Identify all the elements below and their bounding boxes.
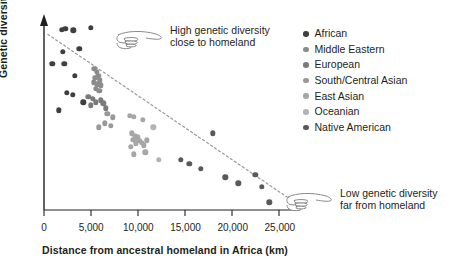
legend-marker-icon <box>303 125 309 131</box>
callout-line-1: Low genetic diversity <box>340 187 437 199</box>
scatter-point <box>96 125 101 130</box>
scatter-point <box>144 138 149 143</box>
legend-item-label: Oceanian <box>315 106 360 117</box>
callout-line-1: High genetic diversity <box>170 24 270 36</box>
x-tick-label: 20,000 <box>217 222 248 233</box>
scatter-point <box>156 157 161 162</box>
legend-marker-icon <box>303 109 309 115</box>
scatter-point <box>259 184 264 189</box>
scatter-point <box>70 92 75 97</box>
x-tick-label: 25,000 <box>265 222 296 233</box>
legend-marker-icon <box>303 47 309 53</box>
legend-item-middle-eastern[interactable]: Middle Eastern <box>303 42 455 58</box>
legend-item-oceanian[interactable]: Oceanian <box>303 104 455 120</box>
scatter-point <box>133 140 138 145</box>
scatter-point <box>98 82 103 87</box>
x-tick-label: 15,000 <box>170 222 201 233</box>
legend-item-european[interactable]: European <box>303 57 455 73</box>
scatter-point <box>50 61 55 66</box>
x-axis-title: Distance from ancestral homeland in Afri… <box>0 244 330 256</box>
scatter-point <box>151 125 156 130</box>
scatter-point <box>96 88 101 93</box>
legend-marker-icon <box>303 62 309 68</box>
scatter-point <box>253 172 258 177</box>
scatter-point <box>88 25 93 30</box>
legend-item-label: Middle Eastern <box>315 44 385 55</box>
scatter-point <box>80 100 85 105</box>
scatter-point <box>222 175 227 180</box>
scatter-point <box>267 200 272 205</box>
pointing-hand-right-icon <box>112 26 168 56</box>
scatter-point <box>72 73 77 78</box>
scatter-point <box>141 143 146 148</box>
x-tick-label: 0 <box>41 222 47 233</box>
scatter-point <box>210 130 215 135</box>
scatter-point <box>77 46 82 51</box>
legend-item-native-american[interactable]: Native American <box>303 120 455 136</box>
scatter-point <box>63 26 68 31</box>
scatter-point <box>64 90 69 95</box>
scatter-point <box>108 123 113 128</box>
scatter-point <box>198 166 203 171</box>
scatter-point <box>62 61 67 66</box>
scatter-point <box>110 115 115 120</box>
legend-item-label: European <box>315 59 361 70</box>
legend-marker-icon <box>303 78 309 84</box>
scatter-point <box>105 111 110 116</box>
legend-marker-icon <box>303 31 309 37</box>
legend-marker-icon <box>303 93 309 99</box>
scatter-point <box>143 150 148 155</box>
high-diversity-callout-text: High genetic diversity close to homeland <box>170 24 270 48</box>
chart-legend: AfricanMiddle EasternEuropeanSouth/Centr… <box>303 26 455 135</box>
callout-line-2: far from homeland <box>340 199 437 211</box>
scatter-point <box>60 49 65 54</box>
x-tick-label: 5,000 <box>79 222 104 233</box>
scatter-point <box>178 157 183 162</box>
low-diversity-callout-text: Low genetic diversity far from homeland <box>340 187 437 211</box>
scatter-point <box>102 121 107 126</box>
x-axis-ticks <box>44 210 279 216</box>
y-axis-title: Genetic diversity <box>0 0 9 78</box>
scatter-point <box>140 117 145 122</box>
scatter-point <box>131 152 136 157</box>
callout-line-2: close to homeland <box>170 36 270 48</box>
pointing-hand-right-icon <box>282 188 338 218</box>
scatter-chart-figure: Genetic diversity 05,00010,00015,00020,0… <box>0 0 460 268</box>
x-tick-label: 10,000 <box>123 222 154 233</box>
scatter-point <box>128 144 133 149</box>
legend-item-east-asian[interactable]: East Asian <box>303 88 455 104</box>
legend-item-label: South/Central Asian <box>315 75 408 86</box>
scatter-point <box>88 103 93 108</box>
scatter-point <box>103 106 108 111</box>
legend-item-label: Native American <box>315 122 391 133</box>
legend-item-label: East Asian <box>315 91 365 102</box>
scatter-point <box>56 107 61 112</box>
scatter-point <box>187 161 192 166</box>
scatter-point <box>131 114 136 119</box>
scatter-point <box>236 180 241 185</box>
legend-item-south-central-asian[interactable]: South/Central Asian <box>303 73 455 89</box>
scatter-point <box>71 28 76 33</box>
x-axis-tick-labels: 05,00010,00015,00020,00025,000 <box>44 222 294 236</box>
legend-item-african[interactable]: African <box>303 26 455 42</box>
legend-item-label: African <box>315 28 348 39</box>
